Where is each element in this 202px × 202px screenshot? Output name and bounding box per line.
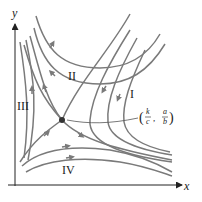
leader-line bbox=[67, 118, 138, 123]
left-trajectories bbox=[20, 36, 172, 160]
svg-text:k: k bbox=[146, 107, 150, 116]
region-iv-label: IV bbox=[62, 163, 75, 177]
svg-text:b: b bbox=[163, 117, 167, 126]
svg-text:): ) bbox=[169, 110, 174, 126]
region-iii-label: III bbox=[17, 99, 29, 113]
region-i-label: I bbox=[130, 87, 134, 101]
svg-text:a: a bbox=[163, 107, 167, 116]
x-axis-label: x bbox=[183, 179, 190, 193]
equilibrium-label: ( k c , a b ) bbox=[139, 107, 174, 126]
phase-portrait-diagram: y x I II III IV ( k c , a b ) bbox=[0, 0, 202, 202]
region-i-trajectories bbox=[62, 14, 172, 162]
region-iv-trajectories bbox=[20, 120, 172, 176]
region-ii-label: II bbox=[68, 69, 76, 83]
svg-text:c: c bbox=[146, 117, 150, 126]
y-axis-label: y bbox=[11, 6, 18, 20]
svg-text:,: , bbox=[153, 113, 155, 123]
region-ii-trajectories bbox=[34, 16, 165, 84]
equilibrium-point bbox=[59, 117, 65, 123]
svg-text:(: ( bbox=[139, 110, 144, 126]
